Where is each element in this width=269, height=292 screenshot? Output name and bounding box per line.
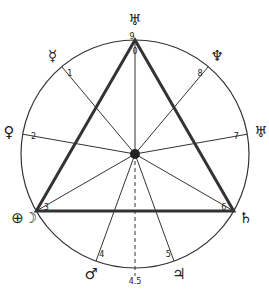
- earth-moon-symbol-icon: ⊕☽: [11, 209, 37, 227]
- spoke-8: [135, 67, 208, 154]
- spoke-1: [62, 67, 135, 154]
- neptune-symbol-icon: ♆: [211, 47, 224, 65]
- spoke-4: [96, 154, 135, 261]
- saturn-symbol-icon: ♄: [239, 209, 252, 227]
- point-label-7: 7: [234, 132, 239, 141]
- spoke-5: [135, 154, 174, 261]
- venus-symbol-icon: ♀: [3, 123, 14, 141]
- point-label-3: 3: [44, 203, 49, 212]
- center-dot: [130, 149, 140, 159]
- point-label-2: 2: [31, 132, 36, 141]
- inner-label-zero: 0: [132, 47, 137, 56]
- bottom-label: 4.5: [129, 277, 142, 286]
- mercury-symbol-icon: ☿: [48, 47, 57, 65]
- point-label-1: 1: [67, 69, 72, 78]
- enneagram-diagram: 912345678 ♅☿♀⊕☽♂♃♄♅♆ 0 4.5: [0, 0, 269, 292]
- mars-symbol-icon: ♂: [84, 265, 97, 283]
- uranus-alt-symbol-icon: ♅: [254, 123, 267, 141]
- point-label-8: 8: [198, 69, 203, 78]
- jupiter-symbol-icon: ♃: [172, 265, 185, 283]
- point-label-9: 9: [129, 32, 134, 41]
- point-label-6: 6: [221, 203, 226, 212]
- uranus-symbol-icon: ♅: [128, 11, 141, 29]
- point-label-4: 4: [99, 250, 104, 259]
- point-label-5: 5: [166, 250, 171, 259]
